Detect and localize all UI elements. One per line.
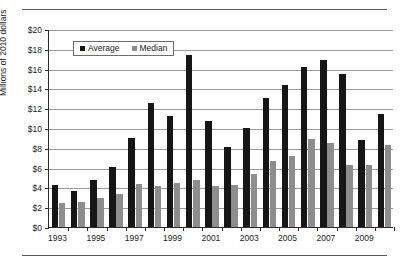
y-tick-label: $10 <box>12 125 42 134</box>
bar-median <box>251 174 258 227</box>
bar-median <box>366 165 373 227</box>
legend-swatch-icon-median <box>132 46 137 51</box>
x-tick-mark <box>107 227 108 231</box>
bar-average <box>339 74 346 227</box>
x-tick-mark <box>87 227 88 231</box>
legend-item-average: Average <box>80 44 120 53</box>
x-tick-mark <box>183 227 184 231</box>
x-tick-label: 1999 <box>153 234 193 243</box>
plot-area <box>48 30 393 228</box>
y-tick-mark <box>45 109 49 110</box>
x-tick-label: 1995 <box>76 234 116 243</box>
bar-average <box>243 128 250 227</box>
bottom-divider <box>22 255 387 256</box>
x-tick-mark <box>394 227 395 231</box>
bar-median <box>78 202 85 227</box>
bar-average <box>71 191 78 227</box>
y-tick-mark <box>45 30 49 31</box>
x-tick-mark <box>126 227 127 231</box>
bar-average <box>148 103 155 227</box>
x-tick-mark <box>222 227 223 231</box>
y-tick-label: $14 <box>12 85 42 94</box>
bar-average <box>167 116 174 227</box>
bar-median <box>116 194 123 227</box>
y-tick-label: $18 <box>12 46 42 55</box>
x-tick-mark <box>337 227 338 231</box>
bar-median <box>289 156 296 227</box>
chart-legend: Average Median <box>73 41 174 56</box>
x-tick-label: 1993 <box>38 234 78 243</box>
y-tick-label: $4 <box>12 184 42 193</box>
bar-average <box>52 185 59 227</box>
y-tick-mark <box>45 50 49 51</box>
x-tick-label: 2001 <box>191 234 231 243</box>
bar-average <box>90 180 97 227</box>
bar-median <box>346 165 353 227</box>
x-tick-label: 2007 <box>306 234 346 243</box>
top-divider <box>22 9 387 10</box>
x-tick-mark <box>241 227 242 231</box>
x-tick-mark <box>356 227 357 231</box>
bar-median <box>193 180 200 227</box>
bar-median <box>308 139 315 227</box>
y-tick-mark <box>45 188 49 189</box>
x-tick-mark <box>164 227 165 231</box>
bar-average <box>320 60 327 227</box>
y-tick-mark <box>45 70 49 71</box>
bar-average <box>263 98 270 227</box>
y-tick-label: $6 <box>12 165 42 174</box>
y-axis-label: Millions of 2010 dollars <box>0 10 8 96</box>
legend-label-median: Median <box>140 44 168 53</box>
y-tick-mark <box>45 129 49 130</box>
bar-series-container <box>49 30 393 227</box>
bar-average <box>224 147 231 227</box>
bar-average <box>358 140 365 227</box>
chart-figure: Millions of 2010 dollars $20$18$16$14$12… <box>0 0 403 266</box>
bar-median <box>212 186 219 227</box>
y-tick-label: $16 <box>12 66 42 75</box>
bar-median <box>231 185 238 227</box>
y-tick-mark <box>45 228 49 229</box>
y-tick-label: $2 <box>12 204 42 213</box>
x-tick-mark <box>260 227 261 231</box>
y-tick-mark <box>45 149 49 150</box>
y-tick-label: $20 <box>12 26 42 35</box>
y-tick-label: $12 <box>12 105 42 114</box>
x-tick-mark <box>298 227 299 231</box>
x-tick-label: 1997 <box>114 234 154 243</box>
legend-label-average: Average <box>88 44 120 53</box>
bar-average <box>109 167 116 227</box>
x-tick-label: 2003 <box>229 234 269 243</box>
x-tick-mark <box>68 227 69 231</box>
x-tick-label: 2005 <box>268 234 308 243</box>
bar-average <box>205 121 212 227</box>
x-tick-mark <box>202 227 203 231</box>
legend-swatch-icon-average <box>80 46 85 51</box>
x-tick-mark <box>145 227 146 231</box>
bar-average <box>128 138 135 227</box>
bar-median <box>155 186 162 227</box>
bar-median <box>97 198 104 227</box>
x-tick-label: 2009 <box>344 234 384 243</box>
bar-median <box>327 143 334 227</box>
x-tick-mark <box>279 227 280 231</box>
bar-median <box>270 161 277 227</box>
legend-item-median: Median <box>132 44 168 53</box>
bar-average <box>186 55 193 227</box>
y-tick-label: $8 <box>12 145 42 154</box>
y-tick-label: $0 <box>12 224 42 233</box>
x-tick-mark <box>317 227 318 231</box>
y-tick-mark <box>45 208 49 209</box>
bar-average <box>282 85 289 227</box>
y-tick-mark <box>45 169 49 170</box>
bar-median <box>174 183 181 227</box>
x-tick-mark <box>375 227 376 231</box>
y-tick-mark <box>45 89 49 90</box>
bar-median <box>385 145 392 227</box>
bar-average <box>301 67 308 227</box>
bar-median <box>136 184 143 227</box>
bar-average <box>378 114 385 227</box>
bar-median <box>59 203 66 227</box>
